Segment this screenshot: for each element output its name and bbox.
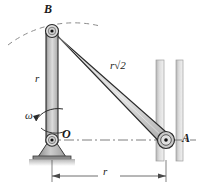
label-point-a: A bbox=[182, 132, 190, 144]
crank-ob bbox=[46, 29, 58, 142]
pivot-joint-o bbox=[46, 134, 58, 146]
guide-rail-right bbox=[176, 60, 183, 161]
figure-canvas: B O A r ω r√2 r bbox=[0, 0, 206, 193]
label-link-length: r√2 bbox=[110, 60, 126, 71]
label-crank-length: r bbox=[35, 73, 39, 84]
pivot-joint-b bbox=[46, 25, 59, 38]
label-point-b: B bbox=[44, 3, 52, 15]
label-point-o: O bbox=[62, 128, 71, 140]
label-angular-velocity: ω bbox=[25, 110, 33, 121]
dimension-line-r bbox=[52, 170, 166, 182]
label-horizontal-dimension: r bbox=[103, 166, 107, 177]
slider-joint-a bbox=[158, 132, 175, 149]
